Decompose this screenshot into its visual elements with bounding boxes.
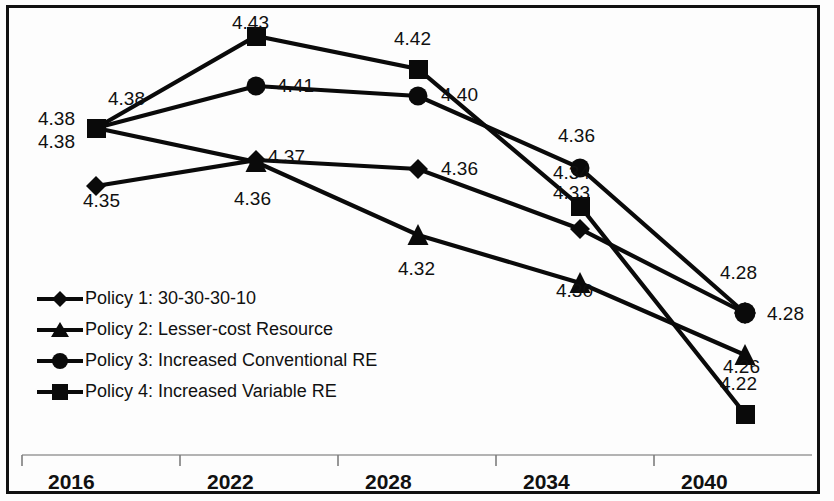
x-tick-label-2022: 2022 [207, 470, 254, 494]
data-point-policy-1-2034 [570, 219, 590, 239]
value-label-policy-1-2016: 4.35 [83, 190, 120, 212]
value-label-policy-4-2022: 4.43 [232, 12, 269, 34]
value-label-policy-1-2022: 4.37 [268, 146, 305, 168]
legend-label-policy-2: Policy 2: Lesser-cost Resource [85, 319, 333, 340]
value-label-policy-2-2028: 4.32 [398, 258, 435, 280]
line-chart-plot-area [0, 0, 834, 501]
chart-legend: Policy 1: 30-30-30-10 Policy 2: Lesser-c… [36, 283, 366, 407]
data-point-policy-2-2028 [408, 224, 429, 245]
x-axis [22, 455, 812, 466]
value-label-policy-2-2022: 4.36 [234, 188, 271, 210]
value-label-policy-4-2028: 4.42 [394, 28, 431, 50]
legend-marker-triangle-icon [36, 319, 84, 341]
data-point-policy-4-2028 [409, 60, 428, 79]
legend-marker-square-icon [36, 381, 84, 403]
legend-marker-diamond-icon [36, 288, 84, 310]
x-tick-label-2016: 2016 [48, 470, 95, 494]
value-label-policy-1-2028: 4.36 [441, 158, 478, 180]
legend-label-policy-1: Policy 1: 30-30-30-10 [85, 288, 256, 309]
data-point-policy-1-2028 [408, 159, 428, 179]
value-label-policy-4-2034: 4.33 [553, 182, 590, 204]
value-label-policy-1-2034: 4.34 [553, 162, 590, 184]
x-tick-label-2028: 2028 [365, 470, 412, 494]
data-point-policy-3-2028 [409, 87, 428, 106]
legend-item-policy-2[interactable]: Policy 2: Lesser-cost Resource [36, 314, 366, 345]
value-label-policy-3-2016: 4.38 [38, 108, 75, 130]
value-label-policy-3-2034: 4.36 [558, 125, 595, 147]
data-point-policy-4-2016 [87, 119, 106, 138]
value-label-policy-3-2028: 4.40 [441, 84, 478, 106]
legend-item-policy-4[interactable]: Policy 4: Increased Variable RE [36, 376, 366, 407]
chart-figure: 4.38 4.38 4.38 4.35 4.43 4.41 4.37 4.36 … [0, 0, 834, 501]
data-point-policy-3-2022 [247, 77, 266, 96]
legend-marker-circle-icon [36, 350, 84, 372]
value-label-policy-3-2022: 4.41 [277, 75, 314, 97]
value-label-policy-1-2040: 4.28 [767, 303, 804, 325]
x-tick-label-2034: 2034 [523, 470, 570, 494]
data-point-policy-4-2040 [736, 405, 755, 424]
value-label-policy-4-2040: 4.22 [720, 373, 757, 395]
legend-item-policy-3[interactable]: Policy 3: Increased Conventional RE [36, 345, 366, 376]
value-label-policy-2-2034: 4.30 [556, 280, 593, 302]
legend-label-policy-3: Policy 3: Increased Conventional RE [85, 350, 377, 371]
value-label-policy-3-2040: 4.28 [720, 262, 757, 284]
legend-label-policy-4: Policy 4: Increased Variable RE [85, 381, 337, 402]
value-label-policy-4-2016: 4.38 [108, 88, 145, 110]
value-label-policy-2-2016: 4.38 [38, 131, 75, 153]
legend-item-policy-1[interactable]: Policy 1: 30-30-30-10 [36, 283, 366, 314]
x-tick-label-2040: 2040 [681, 470, 728, 494]
